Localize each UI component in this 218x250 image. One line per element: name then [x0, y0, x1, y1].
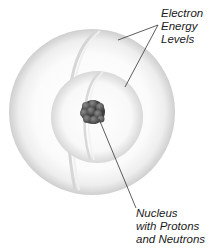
- label-line: with Protons: [136, 220, 205, 233]
- nucleus-label: Nucleus with Protons and Neutrons: [136, 207, 205, 246]
- label-line: Levels: [161, 33, 203, 46]
- electron-energy-levels-label: Electron Energy Levels: [161, 7, 203, 46]
- label-line: Electron: [161, 7, 203, 20]
- leader-line-outer-level: [118, 25, 158, 40]
- nucleus: [80, 100, 105, 124]
- label-line: Energy: [161, 20, 203, 33]
- label-line: Nucleus: [136, 207, 205, 220]
- label-line: and Neutrons: [136, 233, 205, 246]
